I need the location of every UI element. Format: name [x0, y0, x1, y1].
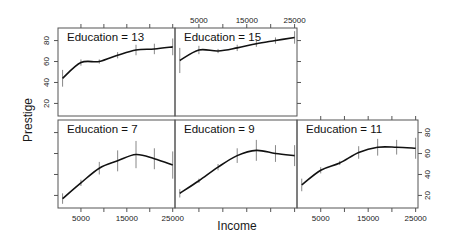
y-tick-label: 60	[423, 149, 432, 158]
fit-line	[302, 147, 416, 185]
panel-label: Education = 13	[67, 31, 144, 43]
fit-line	[63, 47, 173, 78]
x-tick-label: 25000	[405, 214, 428, 223]
y-tick-label: 60	[42, 57, 51, 66]
x-tick-label: 5000	[190, 16, 208, 25]
fit-line	[63, 155, 173, 199]
y-tick-label: 80	[423, 128, 432, 137]
panel-11: Education = 11	[297, 120, 418, 208]
x-tick-label: 15000	[357, 214, 380, 223]
x-tick-label: 15000	[236, 16, 259, 25]
panels: Education = 7Education = 9Education = 11…	[58, 28, 418, 208]
x-tick-label: 5000	[72, 214, 90, 223]
panel-7: Education = 7	[58, 120, 175, 208]
x-tick-label: 25000	[162, 214, 185, 223]
y-tick-label: 80	[42, 36, 51, 45]
x-tick-label: 15000	[116, 214, 139, 223]
panel-label: Education = 15	[184, 31, 261, 43]
y-axis-label: Prestige	[21, 98, 35, 142]
y-tick-label: 40	[423, 169, 432, 178]
panel-9: Education = 9	[175, 120, 297, 208]
panel-13: Education = 13	[58, 28, 175, 116]
y-tick-label: 20	[423, 190, 432, 199]
panel-label: Education = 9	[184, 123, 255, 135]
trellis-chart: Education = 7Education = 9Education = 11…	[0, 0, 457, 241]
panel-15: Education = 15	[175, 28, 297, 116]
panel-label: Education = 11	[306, 123, 382, 135]
x-tick-label: 5000	[312, 214, 330, 223]
x-tick-label: 25000	[283, 16, 306, 25]
x-axis-label: Income	[217, 219, 257, 233]
y-tick-label: 40	[42, 77, 51, 86]
panel-label: Education = 7	[67, 123, 138, 135]
y-tick-label: 20	[42, 98, 51, 107]
